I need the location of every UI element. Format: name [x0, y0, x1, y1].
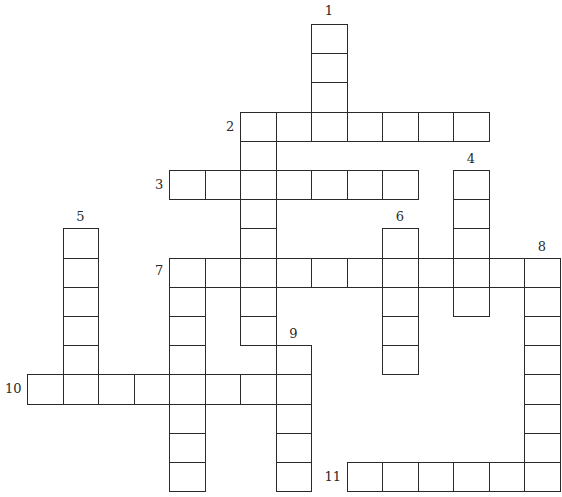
crossword-cell[interactable]: [240, 316, 277, 346]
crossword-cell[interactable]: [63, 228, 100, 258]
crossword-cell[interactable]: [205, 170, 242, 200]
crossword-cell[interactable]: [169, 170, 206, 200]
crossword-cell[interactable]: [276, 258, 313, 288]
clue-number-2: 2: [226, 120, 234, 133]
clue-number-3: 3: [155, 178, 163, 191]
crossword-cell[interactable]: [453, 258, 490, 288]
crossword-cell[interactable]: [347, 462, 384, 492]
crossword-cell[interactable]: [347, 170, 384, 200]
crossword-cell[interactable]: [382, 228, 419, 258]
crossword-cell[interactable]: [311, 24, 348, 54]
crossword-cell[interactable]: [63, 258, 100, 288]
crossword-cell[interactable]: [169, 433, 206, 463]
crossword-cell[interactable]: [169, 258, 206, 288]
crossword-cell[interactable]: [311, 258, 348, 288]
crossword-cell[interactable]: [63, 345, 100, 375]
crossword-cell[interactable]: [169, 316, 206, 346]
crossword-cell[interactable]: [489, 462, 526, 492]
crossword-cell[interactable]: [63, 374, 100, 404]
crossword-cell[interactable]: [418, 112, 455, 142]
crossword-cell[interactable]: [276, 112, 313, 142]
crossword-cell[interactable]: [524, 404, 561, 434]
crossword-cell[interactable]: [276, 170, 313, 200]
crossword-cell[interactable]: [524, 316, 561, 346]
clue-number-9: 9: [289, 327, 297, 340]
clue-number-10: 10: [5, 382, 22, 395]
crossword-cell[interactable]: [63, 287, 100, 317]
crossword-cell[interactable]: [418, 462, 455, 492]
crossword-cell[interactable]: [382, 258, 419, 288]
crossword-cell[interactable]: [240, 258, 277, 288]
crossword-cell[interactable]: [524, 345, 561, 375]
crossword-cell[interactable]: [240, 374, 277, 404]
crossword-cell[interactable]: [489, 258, 526, 288]
crossword-cell[interactable]: [382, 287, 419, 317]
crossword-cell[interactable]: [524, 462, 561, 492]
crossword-cell[interactable]: [347, 258, 384, 288]
crossword-cell[interactable]: [311, 53, 348, 83]
crossword-grid: 1234567891011: [0, 0, 562, 497]
crossword-cell[interactable]: [276, 462, 313, 492]
crossword-cell[interactable]: [240, 112, 277, 142]
crossword-cell[interactable]: [524, 287, 561, 317]
crossword-cell[interactable]: [347, 112, 384, 142]
crossword-cell[interactable]: [276, 374, 313, 404]
crossword-cell[interactable]: [524, 433, 561, 463]
crossword-cell[interactable]: [169, 345, 206, 375]
crossword-cell[interactable]: [382, 462, 419, 492]
crossword-cell[interactable]: [63, 316, 100, 346]
clue-number-1: 1: [325, 4, 333, 17]
crossword-cell[interactable]: [169, 374, 206, 404]
crossword-cell[interactable]: [169, 404, 206, 434]
clue-number-8: 8: [538, 240, 546, 253]
clue-number-11: 11: [325, 470, 342, 483]
crossword-cell[interactable]: [276, 433, 313, 463]
crossword-cell[interactable]: [240, 141, 277, 171]
crossword-cell[interactable]: [169, 462, 206, 492]
crossword-cell[interactable]: [276, 345, 313, 375]
crossword-cell[interactable]: [205, 258, 242, 288]
crossword-cell[interactable]: [134, 374, 171, 404]
crossword-cell[interactable]: [311, 170, 348, 200]
crossword-cell[interactable]: [453, 228, 490, 258]
crossword-cell[interactable]: [524, 374, 561, 404]
crossword-cell[interactable]: [418, 258, 455, 288]
crossword-cell[interactable]: [524, 258, 561, 288]
crossword-cell[interactable]: [382, 316, 419, 346]
crossword-cell[interactable]: [240, 170, 277, 200]
clue-number-7: 7: [155, 264, 163, 277]
crossword-cell[interactable]: [382, 112, 419, 142]
crossword-cell[interactable]: [453, 170, 490, 200]
crossword-cell[interactable]: [311, 112, 348, 142]
crossword-cell[interactable]: [453, 199, 490, 229]
crossword-cell[interactable]: [311, 82, 348, 112]
crossword-cell[interactable]: [453, 112, 490, 142]
crossword-cell[interactable]: [240, 228, 277, 258]
crossword-cell[interactable]: [240, 287, 277, 317]
clue-number-4: 4: [467, 152, 475, 165]
crossword-cell[interactable]: [27, 374, 64, 404]
crossword-cell[interactable]: [382, 345, 419, 375]
crossword-cell[interactable]: [205, 374, 242, 404]
crossword-cell[interactable]: [98, 374, 135, 404]
crossword-cell[interactable]: [453, 287, 490, 317]
clue-number-5: 5: [76, 210, 84, 223]
crossword-cell[interactable]: [453, 462, 490, 492]
clue-number-6: 6: [396, 210, 404, 223]
crossword-cell[interactable]: [382, 170, 419, 200]
crossword-cell[interactable]: [240, 199, 277, 229]
crossword-cell[interactable]: [276, 404, 313, 434]
crossword-cell[interactable]: [169, 287, 206, 317]
